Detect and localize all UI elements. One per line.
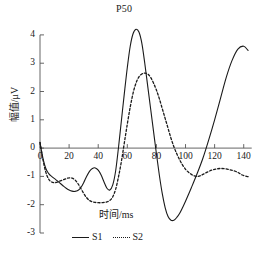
y-tick-label: -2 [19, 199, 35, 209]
y-tick-label: -3 [19, 227, 35, 237]
y-tick-label: 0 [19, 142, 35, 152]
x-tick-label: 40 [85, 151, 111, 161]
y-tick-label: 4 [19, 29, 35, 39]
x-tick-label: 80 [143, 151, 169, 161]
x-tick-label: 20 [56, 151, 82, 161]
legend-item-s1: S1 [72, 232, 103, 242]
x-tick-label: 120 [202, 151, 228, 161]
legend-swatch-dotted-icon [113, 237, 130, 238]
y-tick-label: 3 [19, 57, 35, 67]
x-tick-label: 100 [173, 151, 199, 161]
legend-item-s2: S2 [113, 232, 144, 242]
series-line-s2 [40, 73, 250, 203]
x-axis-title: 时间/ms [99, 206, 133, 221]
chart-legend: S1 S2 [72, 232, 143, 242]
y-tick-label: 1 [19, 114, 35, 124]
x-tick-label: 0 [27, 151, 53, 161]
y-tick-label: 2 [19, 86, 35, 96]
x-tick-label: 140 [231, 151, 257, 161]
legend-swatch-solid-icon [72, 237, 89, 238]
legend-label-s1: S1 [92, 232, 103, 242]
chart-container: P50 时间/ms 幅值/μV 020406080100120140 43210… [0, 0, 259, 253]
x-tick-label: 60 [114, 151, 140, 161]
p50-annotation-label: P50 [116, 3, 132, 14]
chart-series-group [40, 29, 250, 220]
series-line-s1 [40, 29, 248, 220]
chart-axes [40, 35, 252, 233]
y-tick-label: -1 [19, 170, 35, 180]
legend-label-s2: S2 [133, 232, 144, 242]
